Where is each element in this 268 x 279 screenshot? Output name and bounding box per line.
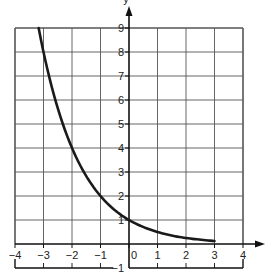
tick-labels: −4−3−2−101234−1123456789xy: [9, 0, 268, 274]
y-axis-arrow-icon: [126, 6, 133, 16]
y-tick-label: −1: [111, 262, 124, 274]
x-tick-label: −2: [66, 249, 79, 261]
x-tick-label: 2: [183, 249, 189, 261]
y-tick-label: 3: [118, 166, 124, 178]
x-tick-label: −1: [94, 249, 107, 261]
y-tick-label: 2: [118, 190, 124, 202]
x-tick-label: 3: [211, 249, 217, 261]
x-axis-arrow-icon: [255, 241, 265, 248]
y-tick-label: 6: [118, 94, 124, 106]
x-tick-label: −4: [9, 249, 22, 261]
y-tick-label: 8: [118, 46, 124, 58]
y-tick-label: 4: [118, 142, 124, 154]
y-axis-label: y: [123, 0, 129, 5]
x-tick-label: 4: [240, 249, 246, 261]
y-tick-label: 7: [118, 70, 124, 82]
y-tick-label: 5: [118, 118, 124, 130]
curve-layer: [39, 28, 215, 241]
x-tick-label: −3: [37, 249, 50, 261]
x-tick-label: 1: [154, 249, 160, 261]
exponential-curve: [39, 28, 215, 241]
exponential-graph: −4−3−2−101234−1123456789xy: [0, 0, 268, 279]
x-tick-label: 0: [131, 249, 137, 261]
axes: [15, 6, 265, 268]
y-tick-label: 9: [118, 22, 124, 34]
